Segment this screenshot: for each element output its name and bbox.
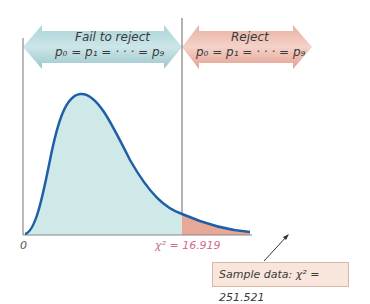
- origin-label: 0: [20, 239, 27, 252]
- critical-value-label: χ² = 16.919: [155, 239, 221, 252]
- pointer-arrow: [264, 236, 287, 261]
- fail-hypothesis: p₀ = p₁ = · · · = p₉: [55, 45, 164, 59]
- sample-data-box: Sample data: χ² = 251.521: [212, 262, 349, 287]
- reject-hypothesis: p₀ = p₁ = · · · = p₉: [196, 45, 305, 59]
- fail-to-reject-label: Fail to reject: [75, 30, 150, 44]
- reject-label: Reject: [231, 30, 269, 44]
